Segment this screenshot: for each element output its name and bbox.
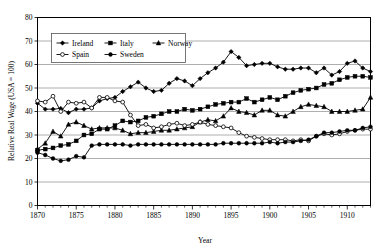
data-point-marker [252,100,256,104]
data-point-marker [345,128,349,132]
data-point-marker [283,140,287,144]
data-point-marker [136,143,140,147]
relative-real-wage-line-chart: 187018751880188518901895190019051910 010… [0,0,386,250]
data-point-marker [152,126,156,130]
data-point-marker [67,143,71,147]
data-point-marker [152,114,156,118]
data-point-marker [167,123,171,127]
data-point-marker [268,96,272,100]
data-point-marker [276,141,280,145]
data-point-marker [183,143,187,147]
x-tick-label: 1905 [301,211,316,220]
data-point-marker [260,98,264,102]
data-point-marker [276,138,280,142]
data-point-marker [369,76,373,80]
data-point-marker [299,88,303,92]
data-point-marker [121,143,125,147]
data-point-marker [229,126,233,130]
data-point-marker [144,123,148,127]
data-point-marker [307,87,311,91]
data-point-marker [109,41,113,45]
data-point-marker [314,134,318,138]
data-point-marker [160,112,164,116]
data-point-marker [345,76,349,80]
y-tick-label: 60 [25,60,33,69]
chart-legend: IrelandItalyNorwaySpainSweden [52,34,193,63]
data-point-marker [74,101,78,105]
data-point-marker [175,121,179,125]
data-point-marker [51,146,55,150]
legend-label: Sweden [120,50,144,59]
y-tick-label: 20 [25,154,33,163]
data-point-marker [353,128,357,132]
y-tick-label: 0 [29,201,33,210]
data-point-marker [245,97,249,101]
legend-label: Ireland [72,39,93,48]
data-point-marker [167,110,171,114]
y-axis-title: Relative Real Wage (USA = 100) [7,61,16,161]
data-point-marker [190,108,194,112]
data-point-marker [36,151,40,155]
x-tick-label: 1895 [224,211,239,220]
data-point-marker [252,141,256,145]
data-point-marker [129,113,133,117]
y-tick-label: 70 [25,37,33,46]
data-point-marker [90,144,94,148]
data-point-marker [221,125,225,129]
data-point-marker [175,110,179,114]
data-point-marker [43,153,47,157]
data-point-marker [43,100,47,104]
data-point-marker [82,155,86,159]
data-point-marker [98,96,102,100]
x-tick-label: 1870 [30,211,45,220]
data-point-marker [109,53,113,57]
x-tick-label: 1910 [340,211,355,220]
y-tick-label: 10 [25,178,33,187]
data-point-marker [237,100,241,104]
x-tick-label: 1885 [146,211,161,220]
data-point-marker [353,74,357,78]
legend-label: Spain [72,50,89,59]
data-point-marker [105,143,109,147]
data-point-marker [198,143,202,147]
data-point-marker [36,99,40,103]
data-point-marker [198,120,202,124]
data-point-marker [74,139,78,143]
data-point-marker [206,143,210,147]
data-point-marker [283,94,287,98]
data-point-marker [198,107,202,111]
data-point-marker [221,141,225,145]
data-point-marker [175,143,179,147]
data-point-marker [144,143,148,147]
data-point-marker [59,159,63,163]
data-point-marker [291,91,295,95]
data-point-marker [245,134,249,138]
data-point-marker [105,96,109,100]
data-point-marker [160,125,164,129]
legend-label: Norway [168,39,192,48]
data-point-marker [136,119,140,123]
data-point-marker [160,143,164,147]
data-point-marker [322,83,326,87]
data-point-marker [82,133,86,137]
data-point-marker [229,100,233,104]
data-point-marker [51,157,55,161]
y-tick-label: 40 [25,107,33,116]
data-point-marker [252,135,256,139]
x-tick-label: 1880 [107,211,122,220]
data-point-marker [59,110,63,114]
data-point-marker [121,119,125,123]
data-point-marker [113,99,117,103]
data-point-marker [291,140,295,144]
data-point-marker [121,100,125,104]
chart-figure: 187018751880188518901895190019051910 010… [0,0,386,250]
data-point-marker [206,105,210,109]
data-point-marker [229,141,233,145]
data-point-marker [129,144,133,148]
data-point-marker [90,132,94,136]
data-point-marker [98,143,102,147]
data-point-marker [214,103,218,107]
x-tick-label: 1875 [69,211,84,220]
data-point-marker [314,86,318,90]
data-point-marker [167,143,171,147]
